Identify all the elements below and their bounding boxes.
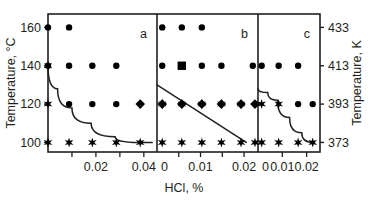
datapoint-a-circle-5	[113, 63, 119, 69]
datapoint-c-circle-3	[295, 101, 301, 107]
datapoint-b-circle-0	[159, 24, 165, 30]
datapoint-b-circle-3	[159, 63, 165, 69]
panel-label-b: b	[241, 27, 248, 41]
ytick-label-left-120: 120	[20, 97, 41, 111]
ytick-label-right-393: 393	[328, 97, 349, 111]
xorigin-label-c: 0	[262, 160, 269, 174]
datapoint-a-star-3	[65, 137, 74, 147]
datapoint-a-circle-3	[66, 63, 72, 69]
datapoint-a-star-5	[112, 137, 121, 147]
panel-label-a: a	[140, 27, 147, 41]
datapoint-b-circle-4	[199, 63, 205, 69]
ytick-label-right-373: 373	[328, 136, 349, 150]
ytick-label-right-413: 413	[328, 59, 349, 73]
datapoint-a-circle-4	[89, 63, 95, 69]
xtick-label-b-0.01: 0.01	[188, 160, 212, 174]
datapoint-b-circle-1	[179, 24, 185, 30]
datapoint-a-circle-0	[45, 24, 51, 30]
datapoint-a-star-4	[88, 137, 97, 147]
datapoint-a-circle-6	[66, 101, 72, 107]
y-axis-title-left: Temperature, °C	[4, 37, 18, 128]
datapoint-c-star-4	[294, 137, 303, 147]
datapoint-b-square-0	[178, 62, 186, 70]
datapoint-c-star-3	[274, 137, 283, 147]
datapoint-b-star-6	[177, 137, 186, 147]
xtick-label-c-0.01: 0.01	[270, 160, 294, 174]
boundary-curve-c	[258, 89, 313, 143]
datapoint-b-circle-5	[218, 63, 224, 69]
xtick-label-b-0.02: 0.02	[232, 160, 256, 174]
figure-container: 100120140160373393413433Temperature, °CT…	[0, 0, 375, 207]
xorigin-label-b: 0	[161, 160, 168, 174]
datapoint-b-star-7	[198, 137, 207, 147]
x-axis-title: HCl, %	[165, 181, 204, 195]
xtick-label-a-0.04: 0.04	[132, 160, 156, 174]
datapoint-c-circle-0	[258, 63, 264, 69]
xtick-label-a-0.02: 0.02	[84, 160, 108, 174]
ytick-label-left-160: 160	[20, 21, 41, 35]
ytick-label-right-433: 433	[328, 21, 349, 35]
datapoint-a-circle-8	[113, 101, 119, 107]
datapoint-a-circle-1	[66, 24, 72, 30]
datapoint-b-star-5	[158, 137, 167, 147]
datapoint-a-diamond-0	[135, 99, 145, 109]
datapoint-b-star-8	[217, 137, 226, 147]
xtick-label-c-0.02: 0.02	[294, 160, 318, 174]
panel-label-c: c	[304, 27, 310, 41]
datapoint-c-circle-2	[295, 63, 301, 69]
datapoint-b-star-9	[237, 137, 246, 147]
ytick-label-left-100: 100	[20, 136, 41, 150]
datapoint-a-circle-7	[89, 101, 95, 107]
plot-frame	[48, 14, 320, 152]
boundary-curve-b	[157, 85, 246, 143]
datapoint-b-circle-2	[199, 24, 205, 30]
phase-diagram-chart: 100120140160373393413433Temperature, °CT…	[0, 0, 375, 207]
datapoint-b-circle-6	[250, 63, 256, 69]
ytick-label-left-140: 140	[20, 59, 41, 73]
datapoint-c-circle-4	[310, 101, 316, 107]
datapoint-c-circle-1	[275, 63, 281, 69]
y-axis-title-right: Temperature, K	[350, 40, 364, 126]
